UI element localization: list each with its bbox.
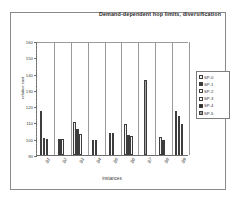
- plot-area: 90100110120130140150160 g1g2g3g4g5g6g7g8…: [36, 42, 188, 156]
- legend-item-SP-2[interactable]: SP-2: [199, 88, 228, 95]
- legend-swatch-SP-3: [199, 97, 203, 101]
- legend-label-SP-1: SP-1: [204, 82, 213, 87]
- legend-label-SP-2: SP-2: [204, 89, 213, 94]
- gridline-4: [105, 42, 106, 155]
- y-minor-tick: [36, 68, 38, 69]
- gridline-3: [88, 42, 89, 155]
- gridline-9: [189, 42, 190, 155]
- y-minor-tick: [36, 146, 38, 147]
- y-minor-tick: [36, 133, 38, 134]
- y-tick-label-120: 120: [26, 105, 33, 110]
- bar-g8-SP-1: [162, 140, 165, 155]
- y-tick-label-90: 90: [28, 154, 33, 159]
- bar-g7-SP-5: [144, 80, 147, 155]
- y-tick-90: [34, 156, 37, 157]
- y-tick-label-110: 110: [26, 121, 33, 126]
- bar-g3-SP-2: [79, 134, 82, 155]
- y-minor-tick: [36, 120, 38, 121]
- x-axis-title: instances: [36, 176, 188, 181]
- y-tick-150: [34, 58, 37, 59]
- gridline-7: [155, 42, 156, 155]
- y-tick-110: [34, 123, 37, 124]
- y-tick-120: [34, 107, 37, 108]
- y-minor-tick: [36, 88, 38, 89]
- legend-item-SP-3[interactable]: SP-3: [199, 95, 228, 102]
- y-minor-tick: [36, 71, 38, 72]
- plot-top-border: [37, 42, 188, 43]
- y-tick-label-160: 160: [26, 40, 33, 45]
- chart-title: Demand-dependent hop limits, diversifica…: [0, 11, 238, 17]
- y-minor-tick: [36, 97, 38, 98]
- gridline-5: [121, 42, 122, 155]
- legend-label-SP-5: SP-5: [204, 111, 213, 116]
- y-minor-tick: [36, 153, 38, 154]
- legend-swatch-SP-2: [199, 89, 203, 93]
- y-minor-tick: [36, 78, 38, 79]
- y-minor-tick: [36, 52, 38, 53]
- y-minor-tick: [36, 130, 38, 131]
- legend-item-SP-5[interactable]: SP-5: [199, 109, 228, 116]
- gridline-8: [172, 42, 173, 155]
- y-minor-tick: [36, 117, 38, 118]
- y-minor-tick: [36, 136, 38, 137]
- y-tick-label-100: 100: [26, 137, 33, 142]
- legend-swatch-SP-5: [199, 111, 203, 115]
- y-minor-tick: [36, 84, 38, 85]
- legend-label-SP-0: SP-0: [204, 75, 213, 80]
- y-minor-tick: [36, 94, 38, 95]
- bar-g9-SP-2: [181, 124, 184, 155]
- chart-legend: SP-0SP-1SP-2SP-3SP-4SP-5: [196, 71, 230, 119]
- legend-label-SP-3: SP-3: [204, 96, 213, 101]
- bar-g6-SP-2: [130, 136, 133, 155]
- legend-item-SP-4[interactable]: SP-4: [199, 102, 228, 109]
- y-minor-tick: [36, 45, 38, 46]
- legend-label-SP-4: SP-4: [204, 103, 213, 108]
- y-tick-label-150: 150: [26, 56, 33, 61]
- y-minor-tick: [36, 49, 38, 50]
- legend-swatch-SP-0: [199, 75, 203, 79]
- y-minor-tick: [36, 104, 38, 105]
- y-minor-tick: [36, 127, 38, 128]
- legend-swatch-SP-4: [199, 104, 203, 108]
- y-minor-tick: [36, 110, 38, 111]
- bar-g5-SP-2: [112, 133, 115, 155]
- bar-g1-SP-2: [46, 139, 49, 155]
- y-tick-140: [34, 75, 37, 76]
- y-tick-100: [34, 140, 37, 141]
- y-minor-tick: [36, 55, 38, 56]
- y-minor-tick: [36, 62, 38, 63]
- gridline-6: [138, 42, 139, 155]
- y-minor-tick: [36, 149, 38, 150]
- legend-item-SP-0[interactable]: SP-0: [199, 74, 228, 81]
- gridline-1: [54, 42, 55, 155]
- y-axis-title: relative cost: [20, 77, 25, 99]
- y-minor-tick: [36, 114, 38, 115]
- y-minor-tick: [36, 143, 38, 144]
- y-tick-label-130: 130: [26, 88, 33, 93]
- legend-item-SP-1[interactable]: SP-1: [199, 81, 228, 88]
- y-minor-tick: [36, 101, 38, 102]
- legend-swatch-SP-1: [199, 82, 203, 86]
- y-minor-tick: [36, 65, 38, 66]
- bar-g2-SP-2: [61, 139, 64, 155]
- y-tick-160: [34, 42, 37, 43]
- bar-g4-SP-2: [95, 140, 98, 155]
- gridline-2: [71, 42, 72, 155]
- y-tick-label-140: 140: [26, 72, 33, 77]
- y-tick-130: [34, 91, 37, 92]
- y-minor-tick: [36, 81, 38, 82]
